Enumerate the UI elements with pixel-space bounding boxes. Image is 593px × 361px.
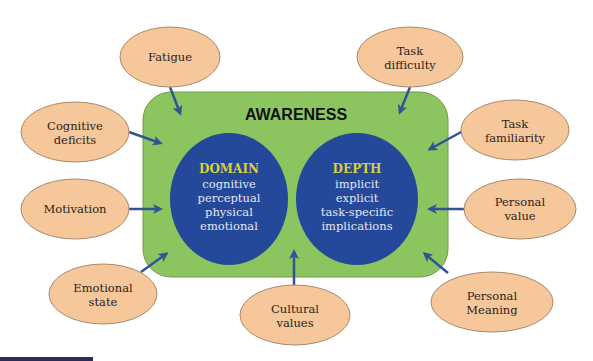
factor-label: Emotional	[73, 281, 133, 295]
domain-title: DOMAIN	[199, 162, 259, 176]
factor-label: Motivation	[44, 202, 108, 216]
bottom-edge-bar	[0, 357, 93, 361]
depth-item: implicit	[335, 177, 379, 191]
factor-cognitive-deficits: Cognitive deficits	[21, 102, 129, 162]
factor-cultural-values: Cultural values	[240, 285, 350, 345]
depth-title: DEPTH	[333, 162, 382, 176]
factor-task-familiarity: Task familiarity	[461, 100, 569, 160]
awareness-box: AWARENESS DOMAIN cognitive perceptual ph…	[143, 92, 448, 277]
depth-item: implications	[321, 219, 392, 233]
factor-label: Task	[502, 117, 530, 131]
factor-emotional-state: Emotional state	[49, 264, 157, 324]
depth-item: task-specific	[321, 205, 393, 219]
factor-label: Task	[397, 44, 425, 58]
factor-motivation: Motivation	[21, 179, 129, 239]
factor-label: Personal	[495, 195, 546, 209]
factor-label: familiarity	[485, 131, 546, 145]
domain-circle: DOMAIN cognitive perceptual physical emo…	[170, 133, 288, 265]
domain-item: emotional	[200, 219, 258, 233]
awareness-title: AWARENESS	[245, 106, 348, 123]
depth-item: explicit	[336, 191, 379, 205]
factor-label: deficits	[54, 133, 97, 147]
factor-label: state	[89, 295, 118, 309]
domain-item: perceptual	[198, 191, 261, 205]
factor-personal-meaning: Personal Meaning	[431, 272, 553, 332]
factor-label: Personal	[467, 289, 518, 303]
depth-circle: DEPTH implicit explicit task-specific im…	[296, 133, 418, 265]
factor-task-difficulty: Task difficulty	[357, 27, 463, 87]
factor-label: Meaning	[466, 303, 518, 317]
factor-fatigue: Fatigue	[120, 27, 220, 87]
factor-label: Cognitive	[47, 119, 103, 133]
factor-label: Cultural	[271, 302, 319, 316]
factor-label: difficulty	[384, 58, 436, 72]
awareness-diagram: AWARENESS DOMAIN cognitive perceptual ph…	[0, 0, 593, 361]
factor-personal-value: Personal value	[464, 179, 576, 239]
domain-item: physical	[205, 205, 253, 219]
factor-label: Fatigue	[148, 50, 192, 64]
domain-item: cognitive	[202, 177, 256, 191]
factor-label: value	[503, 209, 535, 223]
factor-label: values	[275, 316, 313, 330]
